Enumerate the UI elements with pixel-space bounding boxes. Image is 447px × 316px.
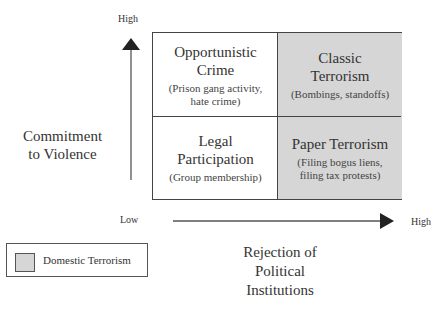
quadrant-grid: Opportunistic Crime (Prison gang activit…: [152, 32, 402, 200]
legend: Domestic Terrorism: [6, 243, 148, 277]
x-axis-high-label: High: [411, 216, 431, 227]
y-axis-high-label: High: [118, 13, 138, 24]
quadrant-classic-terrorism: Classic Terrorism (Bombings, standoffs): [278, 33, 402, 117]
grid-horizontal-divider: [153, 116, 401, 117]
quadrant-paper-terrorism: Paper Terrorism (Filing bogus liens, fil…: [278, 117, 402, 199]
legend-swatch: [15, 253, 35, 272]
quadrant-opportunistic-crime: Opportunistic Crime (Prison gang activit…: [153, 33, 278, 117]
legend-label: Domestic Terrorism: [43, 254, 131, 266]
quadrant-legal-participation: Legal Participation (Group membership): [153, 117, 278, 199]
y-axis-label: Commitment to Violence: [0, 127, 125, 163]
x-axis-low-label: Low: [120, 214, 138, 225]
x-axis-label: Rejection of Political Institutions: [220, 243, 340, 300]
x-axis-arrow-icon: [172, 211, 396, 231]
